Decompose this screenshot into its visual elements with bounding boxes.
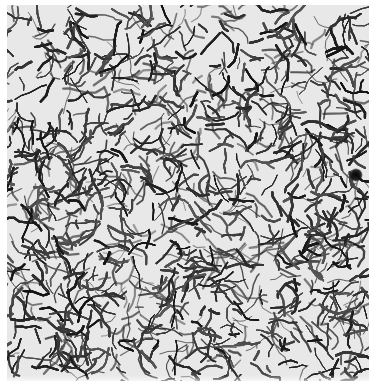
texture-image: Fibrous network texture (0, 0, 376, 388)
fiber-network-texture (7, 5, 369, 381)
